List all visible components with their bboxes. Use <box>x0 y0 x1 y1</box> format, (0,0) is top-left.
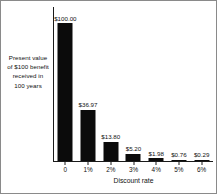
bar <box>103 142 118 161</box>
x-axis-ticks: 01%2%3%4%5%6% <box>54 162 213 176</box>
bar-group: $36.97 <box>77 7 100 161</box>
tick-label: 5% <box>174 166 183 174</box>
bar-group: $0.76 <box>168 7 191 161</box>
y-axis-caption-line-4: 100 years <box>4 81 52 90</box>
tick-label: 4% <box>152 166 161 174</box>
bar <box>171 160 186 161</box>
tick-mark <box>65 162 66 165</box>
tick-mark <box>178 162 179 165</box>
bar-value-label: $0.29 <box>194 151 209 158</box>
bar <box>126 154 141 161</box>
tick-label: 3% <box>129 166 138 174</box>
chart-figure: Present value of $100 benefit received i… <box>0 0 217 194</box>
tick-label: 2% <box>106 166 115 174</box>
bar-value-label: $13.80 <box>101 133 120 140</box>
bar-group: $0.29 <box>190 7 213 161</box>
bar <box>58 23 73 161</box>
bar-group: $100.00 <box>54 7 77 161</box>
tick-mark <box>88 162 89 165</box>
bar-value-label: $36.97 <box>79 101 98 108</box>
y-axis-caption-line-3: received in <box>4 71 52 80</box>
y-axis-caption: Present value of $100 benefit received i… <box>4 53 52 90</box>
bar-value-label: $0.76 <box>171 151 186 158</box>
bar-value-label: $1.98 <box>148 150 163 157</box>
tick-mark <box>133 162 134 165</box>
bar-group: $5.20 <box>122 7 145 161</box>
bar-value-label: $100.00 <box>54 15 76 22</box>
tick-label: 6% <box>197 166 206 174</box>
tick-label: 0 <box>64 166 68 174</box>
bar-value-label: $5.20 <box>126 145 141 152</box>
bar-group: $13.80 <box>99 7 122 161</box>
bar <box>149 158 164 161</box>
x-axis-title: Discount rate <box>54 177 213 184</box>
bar-series: $100.00$36.97$13.80$5.20$1.98$0.76$0.29 <box>54 7 213 161</box>
tick-mark <box>156 162 157 165</box>
y-axis-caption-line-1: Present value <box>4 53 52 62</box>
bar <box>81 110 96 161</box>
bar-group: $1.98 <box>145 7 168 161</box>
tick-mark <box>110 162 111 165</box>
y-axis-caption-line-2: of $100 benefit <box>4 62 52 71</box>
tick-mark <box>201 162 202 165</box>
bar <box>194 160 209 161</box>
tick-label: 1% <box>83 166 92 174</box>
